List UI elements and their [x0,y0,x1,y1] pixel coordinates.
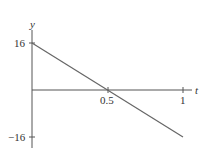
t-tick-label-0.5: 0.5 [100,94,114,106]
t-tick-label-1: 1 [180,94,186,106]
t-axis-label: t [195,84,199,96]
y-tick-label-neg16: −16 [8,131,26,143]
chart: y t 16 −16 0.5 1 [0,0,208,156]
y-axis-label: y [29,18,35,30]
y-tick-label-16: 16 [14,37,26,49]
